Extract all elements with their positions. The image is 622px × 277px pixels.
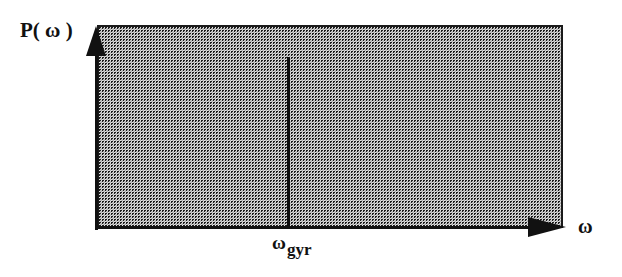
gyro-frequency-base-symbol: ω bbox=[272, 232, 286, 253]
spectrum-figure: P( ω ) ω ωgyr bbox=[0, 0, 622, 277]
x-axis-arrowhead-icon bbox=[528, 217, 566, 237]
gyro-frequency-subscript: gyr bbox=[286, 240, 312, 259]
y-axis-line bbox=[95, 48, 98, 230]
y-axis-label: P( ω ) bbox=[20, 20, 73, 41]
gyro-frequency-tick-label: ωgyr bbox=[272, 233, 311, 258]
gyro-frequency-spike-line bbox=[287, 57, 290, 228]
x-axis-line bbox=[95, 226, 535, 229]
x-axis-label: ω bbox=[578, 216, 593, 236]
y-axis-arrowhead-icon bbox=[86, 26, 106, 56]
spectrum-shaded-region bbox=[97, 25, 563, 228]
